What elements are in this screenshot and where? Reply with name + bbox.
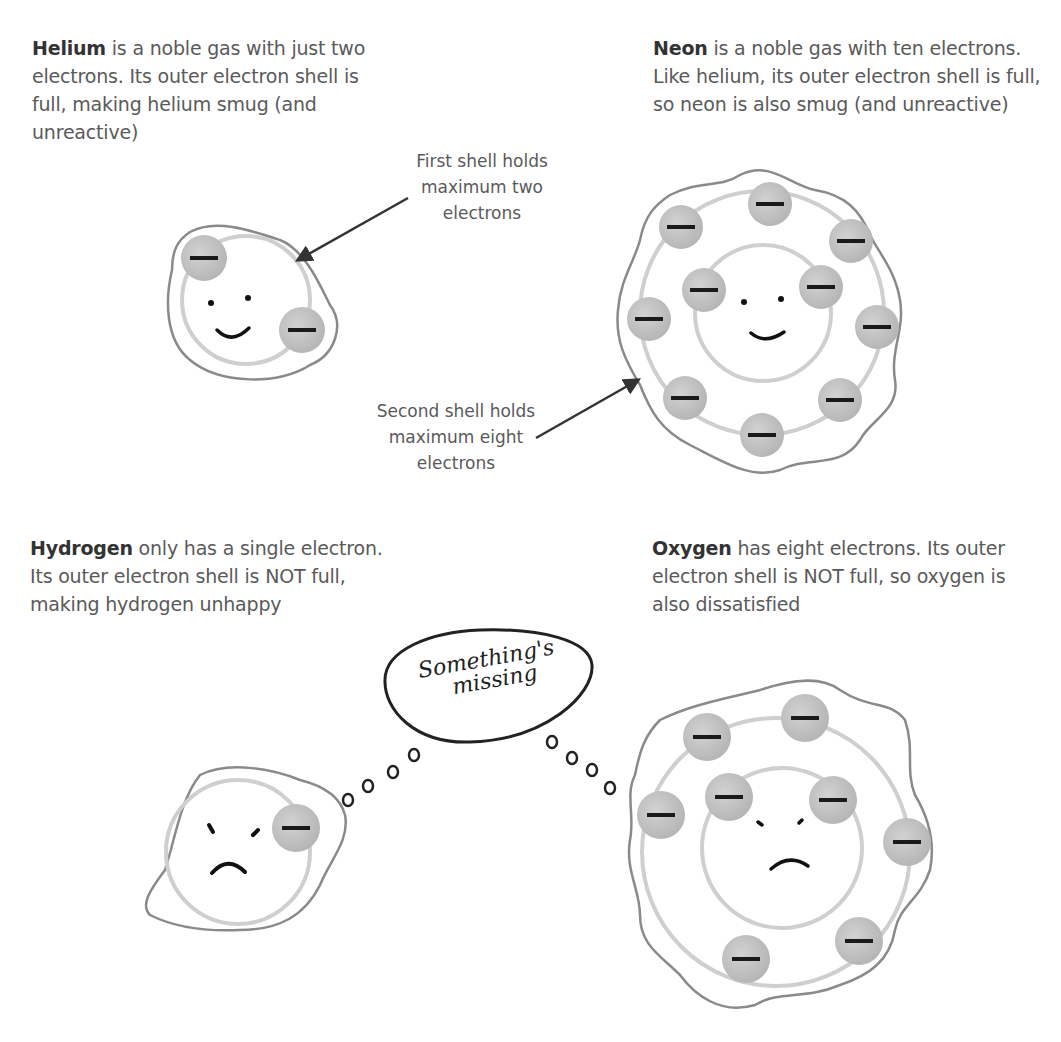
electron-icon: [272, 804, 320, 852]
smile-face-icon: [208, 295, 251, 337]
electron-icon: [705, 773, 753, 821]
frown-face-icon: [209, 825, 258, 873]
electron-icon: [829, 219, 873, 263]
electron-icon: [627, 297, 671, 341]
electron-icon: [722, 935, 770, 983]
second-shell-arrow: [536, 380, 638, 438]
electron-icon: [883, 818, 931, 866]
thought-dots-right: [547, 736, 615, 794]
helium-atom: [168, 226, 337, 380]
electron-icon: [181, 235, 227, 281]
electron-icon: [682, 268, 726, 312]
electron-icon: [637, 791, 685, 839]
first-shell-arrow: [298, 198, 408, 260]
hydrogen-atom: [146, 767, 346, 930]
atoms-illustration: [0, 0, 1061, 1042]
electron-icon: [809, 776, 857, 824]
electron-icon: [740, 413, 784, 457]
electron-icon: [855, 305, 899, 349]
oxygen-atom: [629, 681, 932, 1008]
thought-dots-left: [343, 749, 419, 806]
electron-icon: [748, 182, 792, 226]
electron-icon: [781, 694, 829, 742]
electron-icon: [683, 713, 731, 761]
neon-atom: [617, 170, 901, 472]
electron-icon: [663, 376, 707, 420]
smile-face-icon: [741, 296, 784, 339]
electron-icon: [799, 265, 843, 309]
electron-icon: [835, 917, 883, 965]
electron-icon: [279, 307, 325, 353]
electron-icon: [659, 205, 703, 249]
frown-face-icon: [758, 820, 808, 869]
electron-icon: [818, 378, 862, 422]
